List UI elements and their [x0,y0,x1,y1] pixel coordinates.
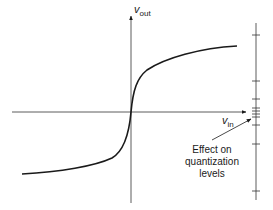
annotation-line-1: Effect on [178,144,246,156]
y-axis-label: vout [134,4,151,15]
x-axis-symbol: v [222,114,228,126]
quantization-levels-scale [252,23,260,200]
y-axis-symbol: v [134,3,140,15]
annotation-line-3: levels [178,168,246,180]
annotation-text: Effect on quantization levels [178,144,246,180]
x-axis-subscript: in [228,120,234,129]
annotation-line-2: quantization [178,156,246,168]
x-axis-label: vin [222,115,234,126]
y-axis-subscript: out [140,9,151,18]
